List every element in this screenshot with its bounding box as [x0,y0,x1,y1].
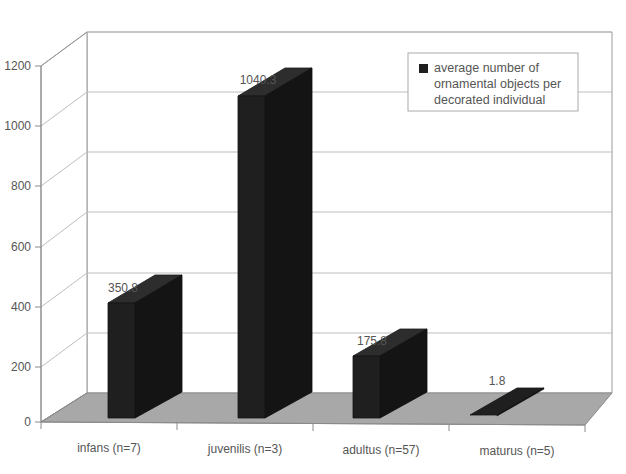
legend-label-line2: ornamental objects per [434,77,561,91]
bar-side-face-juvenilis [265,68,312,418]
bar-group-juvenilis[interactable] [238,68,312,418]
y-axis-ticks [35,66,41,422]
legend-label-line1: average number of [434,61,539,75]
legend-label-line3: decorated individual [434,93,545,107]
legend-swatch-icon [419,64,428,73]
bar-chart-3d: 1200 1000 800 600 400 200 0 [0,0,626,474]
bar-front-face-adultus [353,356,380,418]
y-tick-label-600: 600 [11,240,31,254]
x-tick-label-juvenilis: juvenilis (n=3) [207,442,282,456]
value-label-infans: 350.8 [108,281,138,295]
y-tick-label-1200: 1200 [4,59,31,73]
x-tick-label-maturus: maturus (n=5) [479,444,554,458]
value-label-juvenilis: 1040.3 [240,73,277,87]
y-tick-label-1000: 1000 [4,119,31,133]
value-label-adultus: 175.8 [357,334,387,348]
x-tick-label-adultus: adultus (n=57) [342,443,419,457]
y-tick-label-200: 200 [11,360,31,374]
chart-legend[interactable]: average number of ornamental objects per… [408,53,578,111]
bar-front-face-juvenilis [238,96,265,418]
bar-front-face-infans [108,303,135,418]
plot-left-wall [41,32,87,422]
y-tick-label-800: 800 [11,179,31,193]
chart-canvas: 1200 1000 800 600 400 200 0 [0,0,626,474]
y-tick-label-0: 0 [24,415,31,429]
x-tick-label-infans: infans (n=7) [77,441,141,455]
value-label-maturus: 1.8 [489,374,506,388]
y-tick-label-400: 400 [11,300,31,314]
bar-group-infans[interactable] [108,275,182,418]
